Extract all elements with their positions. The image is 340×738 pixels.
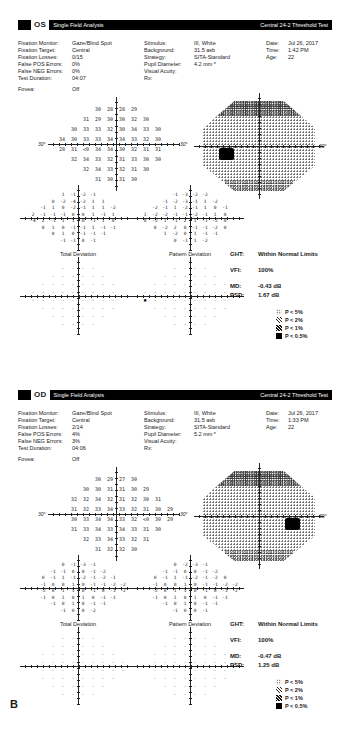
legend-row: P < 0.5% [276,702,307,710]
label-value-row: Rx: [144,445,266,452]
legend-label: P < 2% [285,687,303,693]
probability-legend: P < 5% P < 2% P < 1% P < 0.5% [276,678,307,710]
horizontal-axis [132,666,244,667]
label-value-row: VFI:100% [230,266,318,274]
label-value-row: Fixation Target:Central [18,47,144,54]
params-date: Date:Jul 26, 2017Time:1:33 PMAge:22 [266,410,332,463]
label-value-row: Fixation Losses:0/15 [18,54,144,61]
grayscale-plot [202,100,316,192]
legend-label: P < 2% [285,317,303,323]
degree-label-left: 30° [38,511,46,517]
pattern-deviation-probability-plot: ···························▪············… [140,264,240,328]
grayscale-plot [202,470,316,562]
label-value-row: Strategy:SITA-Standard [144,424,266,431]
horizontal-axis [132,588,244,589]
label-value-row: GHT:Within Normal Limits [230,250,318,258]
total-deviation-grid: 0-1-3-1-1-100-1-20-11-1-2-1-2-1-10010-1-… [28,562,128,614]
horizontal-axis [194,146,324,147]
global-indices: GHT:Within Normal LimitsVFI:100%MD:-0.43… [230,250,318,307]
label-value-row: Background:31.5 asb [144,47,266,54]
total-deviation-probability-plot: ········································… [28,634,128,698]
test-parameters: Fixation Monitor:Gaze/Blind SpotFixation… [18,40,332,93]
global-indices: GHT:Within Normal LimitsVFI:100%MD:-0.47… [230,620,318,677]
label-value-row: Time:1:33 PM [266,417,332,424]
label-value-row: False NEG Errors:0% [18,68,144,75]
legend-label: P < 5% [285,679,303,685]
label-value-row: Pupil Diameter:5.2 mm * [144,431,266,438]
analysis-title: Single Field Analysis [53,20,103,30]
label-value-row: GHT:Within Normal Limits [230,620,318,628]
horizontal-axis [20,588,132,589]
horizontal-axis [132,218,244,219]
label-value-row: Visual Acuity: [144,68,266,75]
label-value-row: Stimulus:III, White [144,40,266,47]
panel-header: OD Single Field Analysis Central 24-2 Th… [18,390,332,400]
figure-panel-letter: B [10,698,18,710]
label-value-row: False POS Errors:0% [18,61,144,68]
test-parameters: Fixation Monitor:Gaze/Blind SpotFixation… [18,410,332,463]
params-fixation: Fixation Monitor:Gaze/Blind SpotFixation… [18,410,144,463]
blind-spot-blob [285,518,300,530]
legend-label: P < 5% [285,309,303,315]
label-value-row: MD:-0.43 dB [230,282,318,290]
legend-row: P < 1% [276,324,307,332]
legend-row: P < 1% [276,694,307,702]
label-value-row: Fovea:Off [18,86,144,93]
eye-marker-square [18,390,31,400]
label-value-row: Pupil Diameter:4.2 mm * [144,61,266,68]
p5-dots-icon [276,309,282,315]
legend-row: P < 0.5% [276,332,307,340]
label-value-row: PSD:1.67 dB [230,291,318,299]
label-value-row: Stimulus:III, White [144,410,266,417]
legend-row: P < 5% [276,308,307,316]
threshold-grid: 3029273030303131302932323432313230313132… [56,474,176,554]
p05-solid-icon [276,333,282,339]
horizontal-axis [48,144,180,145]
panel-header: OS Single Field Analysis Central 24-2 Th… [18,20,332,30]
params-stimulus: Stimulus:III, WhiteBackground:31.5 asbSt… [144,410,266,463]
label-value-row: PSD:1.25 dB [230,661,318,669]
pattern-deviation-grid: -1-3-2-2-1-2-3-11-2-2-11-2-110-11-2-2-1-… [140,192,240,244]
label-value-row: Age:22 [266,424,332,431]
p1-hatch-icon [276,695,282,701]
total-deviation-probability-plot: ········································… [28,264,128,328]
label-value-row: Fixation Losses:2/14 [18,424,144,431]
report-panel-os: OS Single Field Analysis Central 24-2 Th… [18,20,332,360]
params-fixation: Fixation Monitor:Gaze/Blind SpotFixation… [18,40,144,93]
horizontal-axis [20,218,132,219]
label-value-row: MD:-0.47 dB [230,652,318,660]
label-value-row: Time:1:42 PM [266,47,332,54]
p1-hatch-icon [276,325,282,331]
legend-row: P < 5% [276,678,307,686]
degree-label-left: 30° [38,141,46,147]
legend-label: P < 1% [285,695,303,701]
label-value-row: Visual Acuity: [144,438,266,445]
horizontal-axis [20,666,132,667]
horizontal-axis [48,514,180,515]
test-title: Central 24-2 Threshold Test [260,20,328,30]
eye-marker-square [18,20,31,30]
horizontal-axis [20,296,132,297]
legend-label: P < 1% [285,325,303,331]
label-value-row: Background:31.5 asb [144,417,266,424]
header-bar: Single Field Analysis Central 24-2 Thres… [50,390,332,400]
label-value-row: Fovea:Off [18,456,144,463]
label-value-row: False POS Errors:4% [18,431,144,438]
label-value-row: Test Duration:04:06 [18,445,144,452]
label-value-row: Age:22 [266,54,332,61]
params-date: Date:Jul 26, 2017Time:1:42 PMAge:22 [266,40,332,93]
horizontal-axis [194,516,324,517]
p5-dots-icon [276,679,282,685]
blind-spot-blob [219,148,234,160]
legend-row: P < 2% [276,686,307,694]
analysis-title: Single Field Analysis [54,390,104,400]
horizontal-axis [132,296,244,297]
label-value-row: Date:Jul 26, 2017 [266,410,332,417]
legend-row: P < 2% [276,316,307,324]
degree-label-mid: 30° [180,141,188,147]
eye-label: OD [34,390,47,400]
label-value-row: Rx: [144,75,266,82]
label-value-row: VFI:100% [230,636,318,644]
header-bar: Single Field Analysis Central 24-2 Thres… [49,20,332,30]
p2-hatch-icon [276,317,282,323]
